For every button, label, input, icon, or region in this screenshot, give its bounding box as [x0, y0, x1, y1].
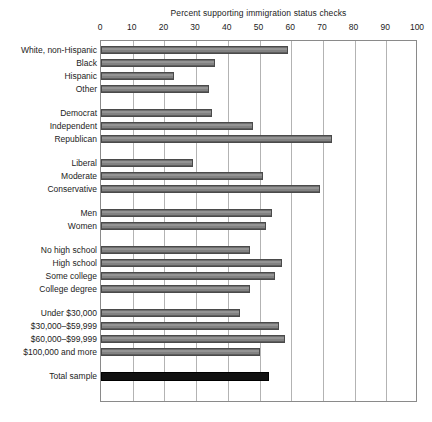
x-tick-label-40: 40 [222, 22, 231, 32]
x-axis-tick-labels: 0102030405060708090100 [0, 22, 432, 35]
bar-category-label: Men [80, 207, 97, 220]
bar-category-label: High school [53, 257, 97, 270]
bar-category-label: $100,000 and more [23, 346, 97, 359]
bar-category-label: Some college [45, 270, 97, 283]
x-tick-label-90: 90 [381, 22, 390, 32]
gridline-80 [355, 41, 356, 401]
gridline-10 [133, 41, 134, 401]
bar-category-label: College degree [39, 283, 97, 296]
bar-chart: Percent supporting immigration status ch… [0, 0, 432, 422]
bar-category-label: Liberal [71, 157, 97, 170]
bar-category-label: $30,000–$59,999 [31, 320, 97, 333]
x-tick-label-0: 0 [98, 22, 103, 32]
bar-category-label: Total sample [49, 370, 97, 383]
bar-category-label: Black [76, 57, 97, 70]
bar-category-label: Other [76, 83, 97, 96]
bar-category-label: Independent [50, 120, 97, 133]
bar-category-label: Republican [54, 133, 97, 146]
x-tick-label-50: 50 [254, 22, 263, 32]
gridline-60 [291, 41, 292, 401]
gridline-70 [323, 41, 324, 401]
bar-category-label: Democrat [60, 107, 97, 120]
bar-category-label: Moderate [61, 170, 97, 183]
bar-category-label: Hispanic [64, 70, 97, 83]
x-tick-label-80: 80 [349, 22, 358, 32]
gridline-40 [228, 41, 229, 401]
x-tick-label-10: 10 [127, 22, 136, 32]
bar-category-label: Women [68, 220, 97, 233]
x-tick-label-70: 70 [317, 22, 326, 32]
x-tick-label-100: 100 [410, 22, 424, 32]
bar-category-label: Under $30,000 [41, 307, 97, 320]
gridline-30 [196, 41, 197, 401]
bar-category-label: White, non-Hispanic [21, 44, 97, 57]
x-tick-label-30: 30 [190, 22, 199, 32]
x-tick-label-60: 60 [285, 22, 294, 32]
bar-category-label: Conservative [47, 183, 97, 196]
chart-title: Percent supporting immigration status ch… [100, 8, 417, 18]
bar-category-label: $60,000–$99,999 [31, 333, 97, 346]
gridline-50 [260, 41, 261, 401]
plot-area [100, 40, 417, 402]
x-tick-label-20: 20 [159, 22, 168, 32]
gridline-20 [164, 41, 165, 401]
gridline-90 [386, 41, 387, 401]
bar-category-label: No high school [41, 244, 97, 257]
